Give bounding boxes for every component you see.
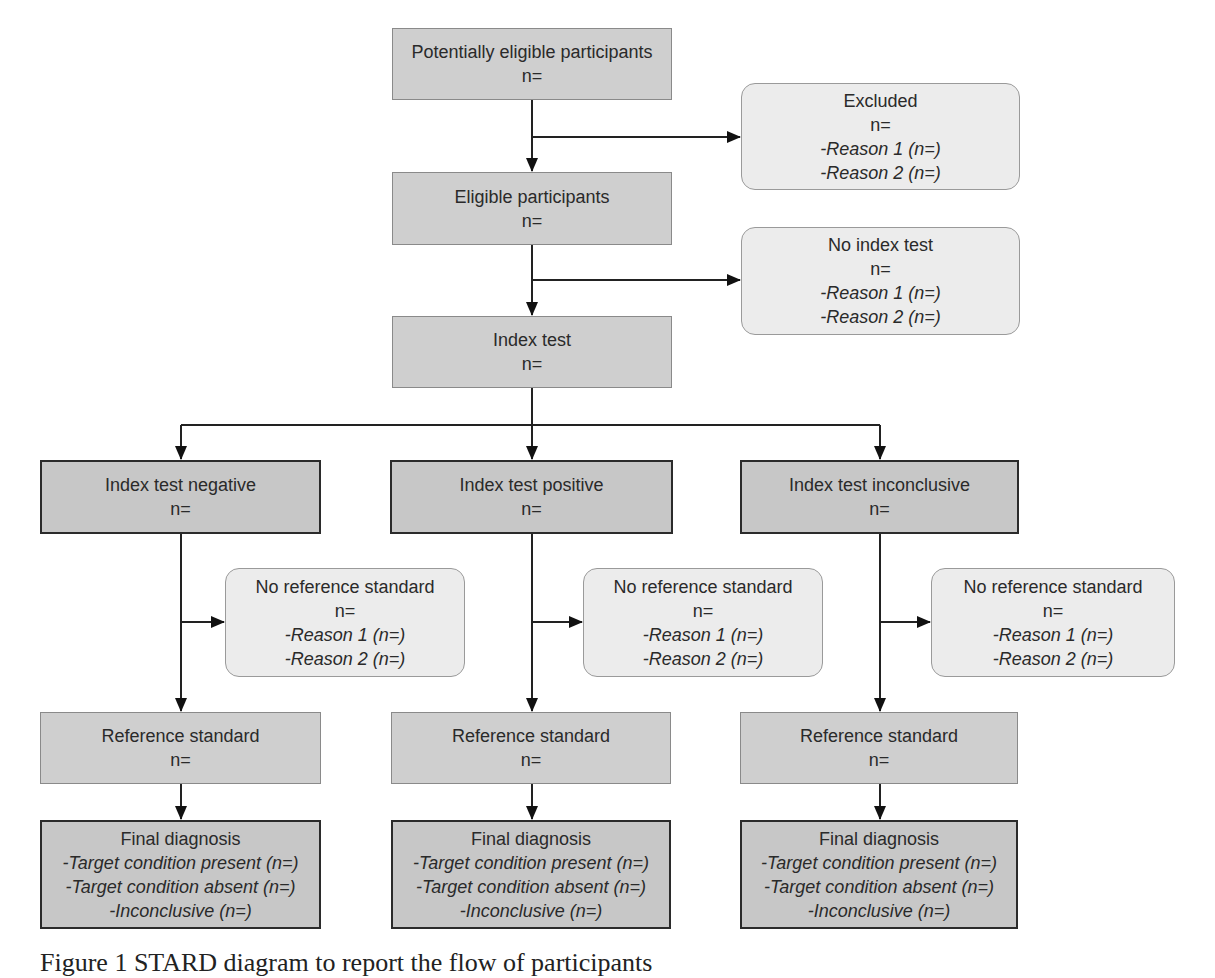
reference-standard-box-inconclusive: Reference standard n= (740, 712, 1018, 784)
box-title: Index test negative (105, 473, 256, 497)
box-count: n= (870, 257, 891, 281)
target-present: -Target condition present (n=) (413, 851, 649, 875)
box-count: n= (170, 497, 191, 521)
reason-2: -Reason 2 (n=) (643, 647, 764, 671)
no-reference-standard-box-positive: No reference standard n= -Reason 1 (n=) … (583, 568, 823, 677)
box-title: Final diagnosis (120, 827, 240, 851)
box-count: n= (170, 748, 191, 772)
box-count: n= (522, 209, 543, 233)
figure-caption: Figure 1 STARD diagram to report the flo… (40, 948, 652, 978)
reason-2: -Reason 2 (n=) (993, 647, 1114, 671)
potentially-eligible-box: Potentially eligible participants n= (392, 28, 672, 100)
target-absent: -Target condition absent (n=) (416, 875, 646, 899)
box-title: No index test (828, 233, 933, 257)
index-test-negative-box: Index test negative n= (40, 460, 321, 534)
inconclusive: -Inconclusive (n=) (460, 899, 603, 923)
box-title: Reference standard (101, 724, 259, 748)
box-title: Final diagnosis (819, 827, 939, 851)
box-count: n= (335, 599, 356, 623)
excluded-box: Excluded n= -Reason 1 (n=) -Reason 2 (n=… (741, 83, 1020, 190)
no-reference-standard-box-inconclusive: No reference standard n= -Reason 1 (n=) … (931, 568, 1175, 677)
box-count: n= (869, 497, 890, 521)
reason-2: -Reason 2 (n=) (285, 647, 406, 671)
final-diagnosis-box-inconclusive: Final diagnosis -Target condition presen… (740, 820, 1018, 929)
no-index-test-box: No index test n= -Reason 1 (n=) -Reason … (741, 227, 1020, 335)
box-count: n= (869, 748, 890, 772)
box-count: n= (1043, 599, 1064, 623)
box-title: Index test positive (459, 473, 603, 497)
target-absent: -Target condition absent (n=) (66, 875, 296, 899)
box-count: n= (522, 352, 543, 376)
eligible-participants-box: Eligible participants n= (392, 172, 672, 245)
box-title: Potentially eligible participants (411, 40, 652, 64)
target-present: -Target condition present (n=) (63, 851, 299, 875)
index-test-positive-box: Index test positive n= (390, 460, 673, 534)
reason-1: -Reason 1 (n=) (993, 623, 1114, 647)
box-title: Index test (493, 328, 571, 352)
reason-1: -Reason 1 (n=) (285, 623, 406, 647)
box-title: No reference standard (963, 575, 1142, 599)
target-absent: -Target condition absent (n=) (764, 875, 994, 899)
reason-1: -Reason 1 (n=) (820, 137, 941, 161)
box-title: Eligible participants (454, 185, 609, 209)
reason-1: -Reason 1 (n=) (643, 623, 764, 647)
reason-1: -Reason 1 (n=) (820, 281, 941, 305)
reference-standard-box-positive: Reference standard n= (391, 712, 671, 784)
box-title: Reference standard (800, 724, 958, 748)
box-title: Reference standard (452, 724, 610, 748)
index-test-box: Index test n= (392, 316, 672, 388)
box-count: n= (522, 64, 543, 88)
box-title: Final diagnosis (471, 827, 591, 851)
no-reference-standard-box-negative: No reference standard n= -Reason 1 (n=) … (225, 568, 465, 677)
box-count: n= (521, 748, 542, 772)
final-diagnosis-box-negative: Final diagnosis -Target condition presen… (40, 820, 321, 929)
box-count: n= (870, 113, 891, 137)
inconclusive: -Inconclusive (n=) (808, 899, 951, 923)
reason-2: -Reason 2 (n=) (820, 161, 941, 185)
box-title: Excluded (843, 89, 917, 113)
reference-standard-box-negative: Reference standard n= (40, 712, 321, 784)
box-count: n= (521, 497, 542, 521)
box-title: No reference standard (255, 575, 434, 599)
final-diagnosis-box-positive: Final diagnosis -Target condition presen… (391, 820, 671, 929)
box-title: No reference standard (613, 575, 792, 599)
reason-2: -Reason 2 (n=) (820, 305, 941, 329)
target-present: -Target condition present (n=) (761, 851, 997, 875)
box-count: n= (693, 599, 714, 623)
inconclusive: -Inconclusive (n=) (109, 899, 252, 923)
box-title: Index test inconclusive (789, 473, 970, 497)
index-test-inconclusive-box: Index test inconclusive n= (740, 460, 1019, 534)
